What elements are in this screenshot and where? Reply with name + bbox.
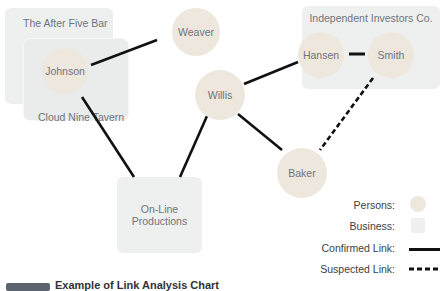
person-label-smith: Smith	[378, 49, 405, 61]
person-johnson: Johnson	[42, 48, 88, 94]
person-label-johnson: Johnson	[45, 65, 85, 77]
link-willis-online	[180, 116, 207, 177]
legend-persons-label: Persons:	[354, 199, 395, 211]
legend-business-swatch	[411, 218, 425, 233]
legend-persons-swatch	[410, 196, 426, 212]
link-willis-baker	[238, 114, 282, 150]
person-willis: Willis	[195, 70, 245, 120]
link-johnson-weaver	[91, 40, 157, 65]
link-johnson-online	[82, 97, 134, 177]
legend-business-label: Business:	[349, 220, 395, 232]
person-label-baker: Baker	[288, 167, 315, 179]
figure-caption: Example of Link Analysis Chart	[55, 279, 219, 291]
legend-suspected-label: Suspected Link:	[320, 263, 395, 275]
person-label-hansen: Hansen	[303, 49, 339, 61]
legend-confirmed-label: Confirmed Link:	[321, 242, 395, 254]
person-baker: Baker	[277, 148, 327, 198]
legend-suspected-swatch	[409, 266, 441, 272]
person-hansen: Hansen	[298, 32, 344, 78]
person-label-willis: Willis	[208, 89, 233, 101]
person-smith: Smith	[368, 32, 414, 78]
link-willis-hansen	[244, 62, 298, 84]
person-weaver: Weaver	[172, 8, 220, 56]
caption-tag	[6, 283, 50, 291]
link-smith-baker-suspected	[320, 78, 373, 150]
person-label-weaver: Weaver	[178, 26, 214, 38]
legend-confirmed-swatch	[409, 248, 440, 251]
